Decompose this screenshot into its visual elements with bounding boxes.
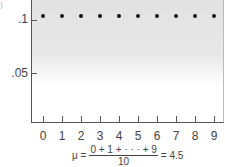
y-tick-label: .05 [4,66,28,80]
x-tick-label: 1 [56,129,68,143]
y-tick [31,20,37,21]
x-tick [100,116,101,122]
x-tick-label: 9 [208,129,220,143]
data-point [174,14,178,18]
y-tick [31,73,37,74]
data-point [212,14,216,18]
x-tick-label: 8 [189,129,201,143]
x-tick-label: 7 [170,129,182,143]
x-tick-label: 5 [132,129,144,143]
corner-mark: ) [0,0,3,9]
data-point [98,14,102,18]
x-tick [119,116,120,122]
data-point [155,14,159,18]
x-tick-label: 2 [75,129,87,143]
formula-numerator: 0 + 1 + · · · + 9 [89,144,157,156]
formula-rhs: = 4.5 [161,150,184,161]
x-tick-label: 6 [151,129,163,143]
data-point [117,14,121,18]
x-tick [214,116,215,122]
x-tick [176,116,177,122]
plot-area [31,0,224,123]
x-tick [157,116,158,122]
data-point [41,14,45,18]
data-point [193,14,197,18]
formula-fraction: 0 + 1 + · · · + 9 10 [89,144,157,167]
x-tick [138,116,139,122]
data-point [60,14,64,18]
x-tick-label: 0 [37,129,49,143]
x-tick-label: 4 [113,129,125,143]
x-tick [62,116,63,122]
data-point [136,14,140,18]
x-tick [81,116,82,122]
data-point [79,14,83,18]
x-tick [195,116,196,122]
y-tick-label: .1 [4,12,28,26]
mean-formula: μ = 0 + 1 + · · · + 9 10 = 4.5 [72,144,183,167]
formula-denominator: 10 [118,156,129,167]
x-tick-label: 3 [94,129,106,143]
formula-lhs: μ = [72,150,86,161]
x-tick [43,116,44,122]
